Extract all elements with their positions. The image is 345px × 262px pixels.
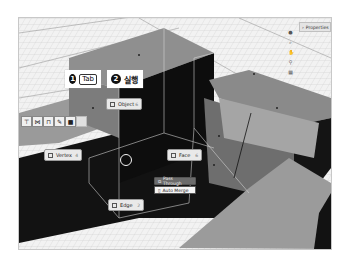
navigation-gizmo: ● ⌕ ✋ ⚲ ▦ bbox=[288, 30, 293, 75]
vertex-mode-icon bbox=[48, 153, 53, 158]
scene-geometry bbox=[19, 18, 331, 249]
properties-label: Properties bbox=[306, 25, 329, 30]
step-2-callout: 2 실행 bbox=[107, 70, 143, 88]
edge-label: Edge bbox=[120, 202, 133, 208]
pie-item-object[interactable]: Object 6 bbox=[106, 98, 142, 110]
hotkey-label: 6 bbox=[135, 102, 138, 107]
object-mode-icon bbox=[110, 102, 115, 107]
empty-slot bbox=[76, 116, 87, 127]
brush-icon[interactable]: ✎ bbox=[54, 116, 65, 127]
face-mode-icon bbox=[171, 153, 176, 158]
execute-label: 실행 bbox=[124, 74, 138, 85]
hand-pan-icon[interactable]: ✋ bbox=[288, 50, 293, 55]
vertex-select-icon[interactable]: ⊤ bbox=[21, 116, 32, 127]
pie-item-edge[interactable]: Edge 2 bbox=[108, 199, 144, 211]
properties-tab[interactable]: › Properties bbox=[299, 22, 331, 32]
face-label: Face bbox=[179, 152, 190, 158]
hotkey-label: 4 bbox=[75, 153, 78, 158]
hotkey-label: 2 bbox=[137, 203, 140, 208]
edge-select-icon[interactable]: ⋈ bbox=[32, 116, 43, 127]
face-select-icon[interactable]: ⊓ bbox=[43, 116, 54, 127]
hotkey-label: 6 bbox=[195, 153, 198, 158]
grid-icon[interactable]: ▦ bbox=[288, 70, 293, 75]
3d-viewport[interactable]: › Properties ● ⌕ ✋ ⚲ ▦ 1 Tab 2 실행 Object… bbox=[18, 17, 332, 250]
auto-merge-icon: ▯ bbox=[158, 188, 160, 193]
step-1-callout: 1 Tab bbox=[65, 70, 101, 88]
step-number-badge: 2 bbox=[111, 74, 121, 84]
selection-toolbar: ⊤ ⋈ ⊓ ✎ ■ bbox=[21, 116, 87, 127]
auto-merge-toggle[interactable]: ▯ Auto Merge bbox=[154, 186, 196, 194]
pie-item-vertex[interactable]: Vertex 4 bbox=[44, 149, 82, 161]
object-label: Object bbox=[118, 101, 134, 107]
pie-center-cursor bbox=[120, 154, 132, 166]
zoom-icon[interactable]: ⌕ bbox=[288, 40, 293, 45]
step-number-badge: 1 bbox=[69, 74, 76, 84]
x-ray-icon[interactable]: ■ bbox=[65, 116, 76, 127]
vertex-label: Vertex bbox=[56, 152, 72, 158]
chevron-right-icon: › bbox=[302, 25, 304, 30]
view-sphere-icon[interactable]: ● bbox=[288, 30, 293, 35]
pass-through-icon: ⧉ bbox=[158, 179, 161, 184]
auto-merge-label: Auto Merge bbox=[162, 188, 188, 193]
pass-through-label: Pass Through bbox=[163, 176, 192, 186]
tab-key-label: Tab bbox=[79, 74, 97, 85]
camera-icon[interactable]: ⚲ bbox=[288, 60, 293, 65]
pass-through-toggle[interactable]: ⧉ Pass Through bbox=[154, 177, 196, 185]
pie-item-face[interactable]: Face 6 bbox=[167, 149, 202, 161]
edge-mode-icon bbox=[112, 203, 117, 208]
